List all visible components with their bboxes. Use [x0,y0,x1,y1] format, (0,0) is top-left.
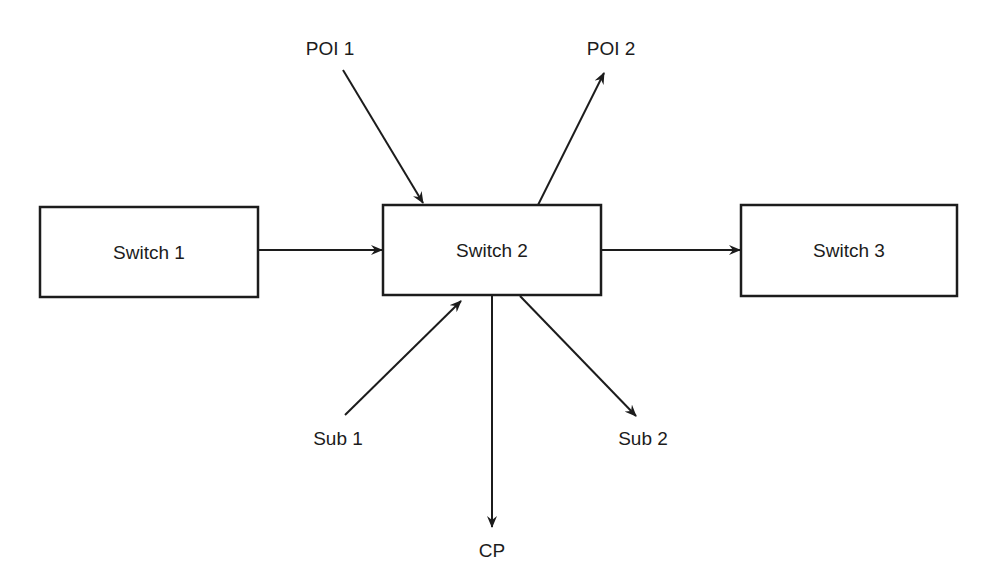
node-switch1: Switch 1 [40,207,258,297]
label-sub1: Sub 1 [313,428,363,449]
node-switch1-label: Switch 1 [113,242,185,263]
network-diagram: Switch 1 Switch 2 Switch 3 POI 1 POI 2 S… [0,0,993,573]
node-switch2-label: Switch 2 [456,240,528,261]
label-poi1: POI 1 [306,38,355,59]
label-cp: CP [479,540,505,561]
edge-switch2-to-sub2 [520,296,636,416]
node-switch2: Switch 2 [383,205,601,295]
node-switch3: Switch 3 [741,205,957,296]
edge-switch2-to-poi2 [538,73,604,205]
label-sub2: Sub 2 [618,428,668,449]
label-poi2: POI 2 [587,38,636,59]
node-switch3-label: Switch 3 [813,240,885,261]
edge-poi1-to-switch2 [343,70,423,203]
edge-sub1-to-switch2 [345,301,461,415]
